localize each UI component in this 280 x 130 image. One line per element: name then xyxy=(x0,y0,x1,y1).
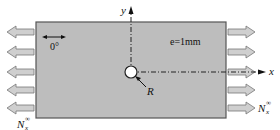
right-load-subscript: x xyxy=(265,108,270,116)
left-load-superscript: ∞ xyxy=(25,115,30,123)
left-load-label: N x ∞ xyxy=(16,115,30,130)
arrow-left-icon xyxy=(7,84,34,96)
right-load-arrows xyxy=(228,26,255,114)
thickness-label: e=1mm xyxy=(170,36,201,47)
right-load-label: N x ∞ xyxy=(257,99,271,116)
right-load-symbol: N xyxy=(257,102,266,114)
y-axis-label: y xyxy=(120,4,126,16)
radius-label: R xyxy=(146,85,154,97)
arrow-left-icon xyxy=(7,46,34,58)
arrow-right-icon xyxy=(228,46,255,58)
plate-with-hole-diagram: 0° y x R e=1mm N x ∞ N x ∞ xyxy=(0,0,280,130)
x-axis-arrowhead-icon xyxy=(258,70,266,75)
arrow-left-icon xyxy=(7,102,34,114)
arrow-left-icon xyxy=(7,66,34,78)
fiber-orientation-label: 0° xyxy=(50,41,59,52)
left-load-symbol: N xyxy=(16,118,25,130)
arrow-right-icon xyxy=(228,26,255,38)
left-load-subscript: x xyxy=(24,124,29,130)
arrow-right-icon xyxy=(228,102,255,114)
y-axis-arrowhead-icon xyxy=(129,6,134,14)
right-load-superscript: ∞ xyxy=(266,99,271,107)
arrow-right-icon xyxy=(228,84,255,96)
left-load-arrows xyxy=(7,26,34,114)
arrow-left-icon xyxy=(7,26,34,38)
x-axis-label: x xyxy=(268,65,274,77)
